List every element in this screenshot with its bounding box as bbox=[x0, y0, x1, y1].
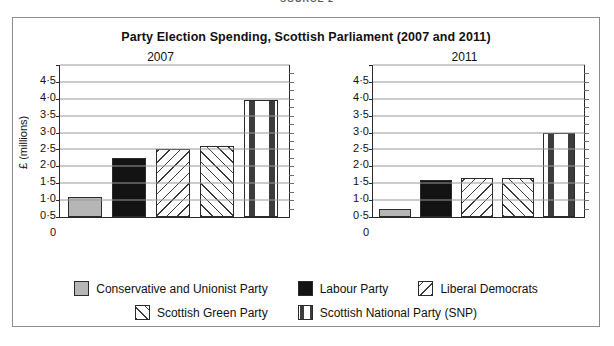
y-minor-tick-right bbox=[289, 90, 294, 91]
y-tick-label: 0 bbox=[50, 227, 56, 238]
y-tick-mark bbox=[56, 133, 60, 134]
gridline bbox=[60, 81, 290, 82]
legend-swatch-icon bbox=[298, 305, 313, 320]
plot-area-2011 bbox=[372, 65, 585, 218]
gridline bbox=[60, 65, 290, 66]
y-minor-tick-right bbox=[584, 141, 589, 142]
y-tick-label: 2·5 bbox=[40, 142, 56, 153]
y-minor-tick-right bbox=[289, 73, 294, 74]
y-minor-tick-right bbox=[584, 209, 589, 210]
gridline bbox=[60, 183, 290, 184]
y-minor-tick-right bbox=[289, 183, 294, 184]
gridline bbox=[373, 183, 585, 184]
y-tick-mark bbox=[369, 217, 373, 218]
y-minor-tick-right bbox=[289, 99, 294, 100]
y-tick-label: 4·0 bbox=[353, 91, 369, 102]
gridline bbox=[373, 149, 585, 150]
bar-group-2007 bbox=[68, 65, 278, 217]
y-axis-label-2007: £ (millions) bbox=[17, 66, 29, 218]
y-minor-tick-right bbox=[584, 90, 589, 91]
chart-title: Party Election Spending, Scottish Parlia… bbox=[13, 30, 599, 44]
y-minor-tick-right bbox=[584, 166, 589, 167]
y-tick-label: 1·5 bbox=[353, 176, 369, 187]
y-tick-mark bbox=[369, 65, 373, 66]
bar-group-2011 bbox=[379, 65, 575, 217]
bar bbox=[461, 178, 493, 217]
legend-row: Conservative and Unionist PartyLabour Pa… bbox=[13, 281, 599, 296]
panel-title-2011: 2011 bbox=[344, 50, 585, 65]
legend-item[interactable]: Labour Party bbox=[298, 281, 389, 296]
y-minor-tick-right bbox=[584, 192, 589, 193]
legend-item[interactable]: Conservative and Unionist Party bbox=[74, 281, 267, 296]
y-tick-label: 3·0 bbox=[40, 125, 56, 136]
y-tick-mark bbox=[369, 200, 373, 201]
legend-swatch-icon bbox=[135, 305, 150, 320]
y-minor-tick-right bbox=[584, 82, 589, 83]
legend-swatch-icon bbox=[74, 281, 89, 296]
y-minor-tick-right bbox=[584, 200, 589, 201]
legend-item[interactable]: Liberal Democrats bbox=[418, 281, 537, 296]
gridline bbox=[373, 81, 585, 82]
y-tick-mark bbox=[56, 99, 60, 100]
y-tick-label: 3·5 bbox=[40, 108, 56, 119]
legend-item[interactable]: Scottish Green Party bbox=[135, 305, 268, 320]
y-tick-label: 2·0 bbox=[353, 159, 369, 170]
y-minor-tick-right bbox=[289, 149, 294, 150]
gridline bbox=[373, 115, 585, 116]
legend-item[interactable]: Scottish National Party (SNP) bbox=[298, 305, 477, 320]
y-minor-tick-right bbox=[289, 133, 294, 134]
y-minor-tick-right bbox=[289, 124, 294, 125]
legend-swatch-icon bbox=[418, 281, 433, 296]
y-tick-label: 2·5 bbox=[353, 142, 369, 153]
gridline bbox=[60, 149, 290, 150]
y-axis-ticks-2011: 4·54·03·53·02·52·01·51·00·50 bbox=[344, 65, 372, 217]
source-caption: SOURCE 2 bbox=[0, 0, 614, 3]
y-tick-label: 4·5 bbox=[353, 75, 369, 86]
y-minor-tick-right bbox=[289, 116, 294, 117]
bar bbox=[420, 180, 452, 217]
legend-row: Scottish Green PartyScottish National Pa… bbox=[13, 305, 599, 320]
figure-frame: Party Election Spending, Scottish Parlia… bbox=[12, 17, 600, 327]
y-tick-label: 2·0 bbox=[40, 159, 56, 170]
y-tick-mark bbox=[56, 65, 60, 66]
chart-panel-2011: £ (millions) 2011 4·54·03·53·02·52·01·51… bbox=[330, 50, 585, 218]
y-minor-tick-right bbox=[289, 107, 294, 108]
y-minor-tick-right bbox=[584, 175, 589, 176]
y-minor-tick-right bbox=[289, 175, 294, 176]
y-tick-label: 1·0 bbox=[40, 193, 56, 204]
gridline bbox=[373, 200, 585, 201]
y-tick-label: 1·0 bbox=[353, 193, 369, 204]
y-tick-mark bbox=[56, 116, 60, 117]
y-axis-ticks-2007: 4·54·03·53·02·52·01·51·00·50 bbox=[31, 65, 59, 217]
y-tick-mark bbox=[369, 183, 373, 184]
y-minor-tick-right bbox=[584, 149, 589, 150]
y-minor-tick-right bbox=[584, 99, 589, 100]
y-minor-tick-right bbox=[584, 116, 589, 117]
gridline bbox=[373, 132, 585, 133]
bar bbox=[200, 146, 234, 217]
gridline bbox=[60, 98, 290, 99]
gridline bbox=[373, 166, 585, 167]
legend-label: Scottish National Party (SNP) bbox=[320, 306, 477, 320]
y-tick-mark bbox=[56, 200, 60, 201]
y-tick-mark bbox=[369, 166, 373, 167]
bar bbox=[379, 209, 411, 217]
legend-swatch-icon bbox=[298, 281, 313, 296]
y-tick-mark bbox=[369, 116, 373, 117]
chart-legend: Conservative and Unionist PartyLabour Pa… bbox=[13, 272, 599, 320]
y-tick-label: 0·5 bbox=[353, 210, 369, 221]
gridline bbox=[373, 98, 585, 99]
legend-label: Conservative and Unionist Party bbox=[96, 282, 267, 296]
y-tick-mark bbox=[56, 82, 60, 83]
gridline bbox=[60, 132, 290, 133]
y-minor-tick-right bbox=[584, 133, 589, 134]
y-tick-mark bbox=[56, 217, 60, 218]
y-tick-mark bbox=[56, 149, 60, 150]
y-minor-tick-right bbox=[584, 73, 589, 74]
y-tick-label: 1·5 bbox=[40, 176, 56, 187]
y-minor-tick-right bbox=[584, 124, 589, 125]
legend-label: Scottish Green Party bbox=[157, 306, 268, 320]
y-minor-tick-right bbox=[289, 166, 294, 167]
y-minor-tick-right bbox=[289, 158, 294, 159]
gridline bbox=[60, 200, 290, 201]
